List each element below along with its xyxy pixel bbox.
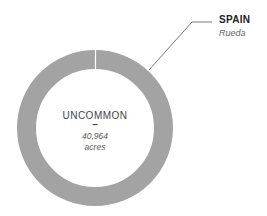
acreage-value: 40,964: [45, 131, 145, 141]
acreage-unit: acres: [45, 142, 145, 152]
country-label: SPAIN: [219, 14, 250, 25]
separator-dash: –: [45, 119, 145, 130]
region-label: Rueda: [219, 28, 246, 38]
leader-line: [149, 22, 212, 70]
